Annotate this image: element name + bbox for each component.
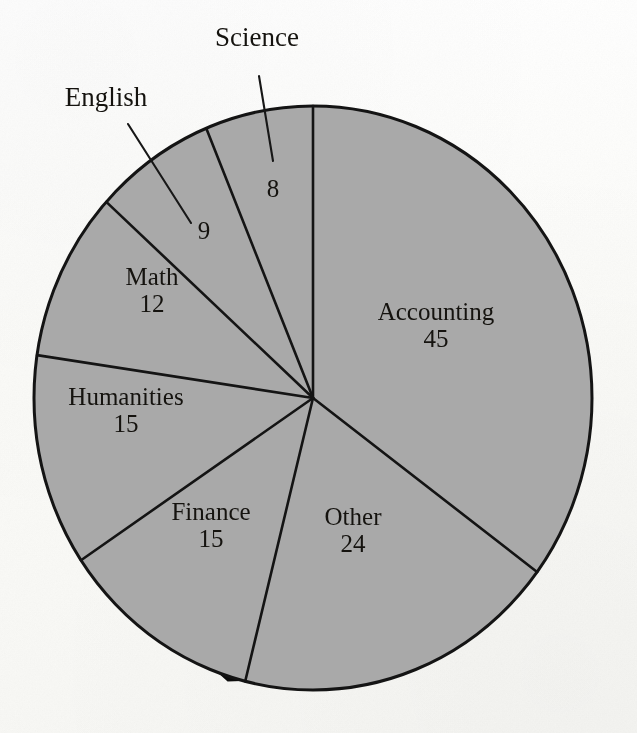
- slice-label-name: Math: [126, 263, 179, 290]
- slice-label-value: 8: [267, 175, 280, 202]
- callout-label-science: Science: [215, 23, 299, 52]
- slice-label-value: 45: [378, 325, 495, 352]
- slice-label-english: 9: [198, 217, 211, 244]
- slice-label-accounting: Accounting45: [378, 298, 495, 352]
- slice-label-name: Finance: [171, 498, 250, 525]
- slice-label-value: 15: [171, 525, 250, 552]
- slice-label-humanities: Humanities15: [68, 383, 183, 437]
- slice-label-name: Other: [325, 503, 382, 530]
- slice-label-name: Accounting: [378, 298, 495, 325]
- slice-label-other: Other24: [325, 503, 382, 557]
- slice-label-value: 9: [198, 217, 211, 244]
- slice-label-science: 8: [267, 175, 280, 202]
- slice-label-name: Humanities: [68, 383, 183, 410]
- slice-label-value: 24: [325, 530, 382, 557]
- callout-label-english: English: [65, 83, 148, 112]
- slice-label-finance: Finance15: [171, 498, 250, 552]
- slice-label-math: Math12: [126, 263, 179, 317]
- slice-label-value: 15: [68, 410, 183, 437]
- slice-label-value: 12: [126, 290, 179, 317]
